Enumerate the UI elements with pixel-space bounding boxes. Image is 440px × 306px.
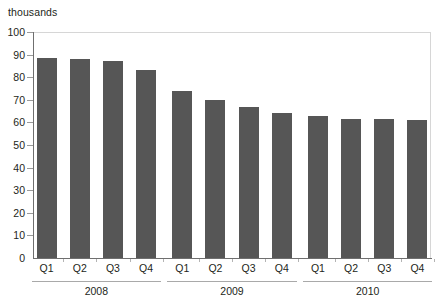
bar [37, 58, 57, 258]
bar [272, 113, 292, 258]
bar [70, 59, 90, 258]
x-axis-tick [163, 259, 164, 262]
y-axis-labels: 0102030405060708090100 [0, 0, 25, 306]
x-axis-tick [265, 259, 266, 262]
bar [341, 119, 361, 258]
y-axis-label: 40 [1, 162, 25, 174]
x-axis-tick [130, 259, 131, 262]
year-group-label: 2010 [356, 285, 379, 297]
y-axis-label: 60 [1, 116, 25, 128]
year-group-rule [32, 281, 162, 282]
bar [205, 100, 225, 258]
y-axis-label: 50 [1, 139, 25, 151]
x-axis-label: Q3 [377, 262, 391, 274]
y-axis-label: 90 [1, 49, 25, 61]
x-axis-label: Q4 [139, 262, 153, 274]
x-axis-label: Q1 [175, 262, 189, 274]
x-axis-tick [434, 259, 435, 262]
bar [374, 119, 394, 258]
bar-chart: thousands 0102030405060708090100 Q1Q2Q3Q… [0, 0, 440, 306]
bar [136, 70, 156, 258]
year-group-rule [303, 281, 433, 282]
y-axis-label: 20 [1, 207, 25, 219]
x-axis-label: Q4 [275, 262, 289, 274]
x-axis-tick [401, 259, 402, 262]
bar [172, 91, 192, 258]
x-axis-label: Q3 [242, 262, 256, 274]
x-axis-tick [63, 259, 64, 262]
year-group-label: 2008 [85, 285, 108, 297]
x-axis-label: Q4 [410, 262, 424, 274]
x-axis-label: Q1 [311, 262, 325, 274]
y-axis-label: 100 [1, 26, 25, 38]
bar [239, 107, 259, 258]
x-axis-label: Q2 [344, 262, 358, 274]
y-axis-label: 80 [1, 71, 25, 83]
x-axis-tick [199, 259, 200, 262]
x-axis-label: Q3 [106, 262, 120, 274]
bar [308, 116, 328, 258]
x-axis-tick [96, 259, 97, 262]
x-axis-label: Q2 [73, 262, 87, 274]
x-axis-tick [335, 259, 336, 262]
y-axis-label: 10 [1, 229, 25, 241]
y-axis-label: 30 [1, 184, 25, 196]
bar [407, 120, 427, 258]
x-axis-tick [298, 259, 299, 262]
x-axis-tick [232, 259, 233, 262]
x-axis-tick [368, 259, 369, 262]
x-axis-label: Q2 [208, 262, 222, 274]
bars-container [33, 32, 431, 258]
x-axis-label: Q1 [40, 262, 54, 274]
y-axis-label: 0 [1, 252, 25, 264]
year-group-label: 2009 [220, 285, 243, 297]
bar [103, 61, 123, 258]
year-group-rule [167, 281, 297, 282]
y-axis-label: 70 [1, 94, 25, 106]
